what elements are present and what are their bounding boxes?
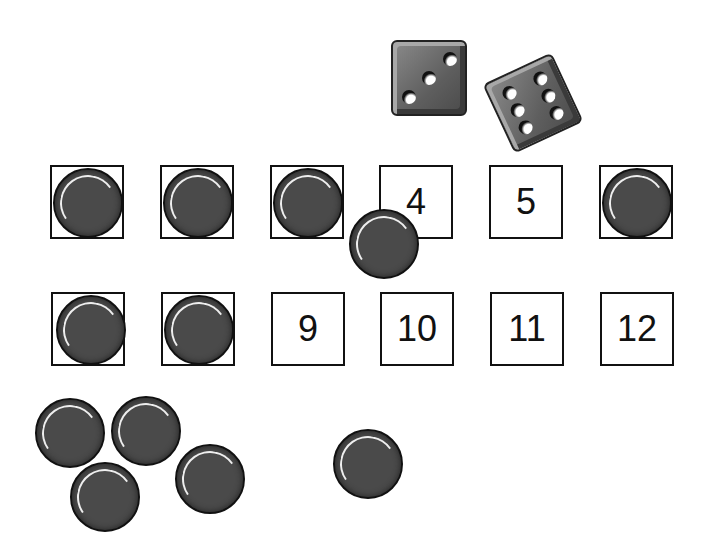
board-cell-3[interactable] [270,165,344,239]
pip-icon [508,101,527,120]
cell-number: 11 [508,308,545,350]
chip-covering[interactable] [273,168,343,238]
board-cell-12[interactable]: 12 [600,292,674,366]
chip-loose[interactable] [70,462,140,532]
chip-loose[interactable] [349,209,419,279]
chip-covering[interactable] [164,295,234,365]
die-six[interactable] [483,53,584,154]
chip-covering[interactable] [163,168,233,238]
board-cell-1[interactable] [50,165,124,239]
cell-number: 4 [406,181,426,223]
board-cell-6[interactable] [599,165,673,239]
pip-icon [443,52,457,66]
chip-loose[interactable] [111,396,181,466]
board-cell-11[interactable]: 11 [490,292,564,366]
chip-covering[interactable] [602,168,672,238]
cell-number: 9 [298,308,318,350]
cell-number: 12 [617,308,657,350]
chip-loose[interactable] [175,444,245,514]
board-cell-5[interactable]: 5 [489,165,563,239]
board-cell-10[interactable]: 10 [380,292,454,366]
board-cell-9[interactable]: 9 [271,292,345,366]
chip-loose[interactable] [35,398,105,468]
pip-icon [531,69,550,88]
cell-number: 10 [397,308,437,350]
die-three[interactable] [391,40,467,116]
pip-icon [547,104,566,123]
board-cell-2[interactable] [160,165,234,239]
chip-loose[interactable] [333,429,403,499]
pip-icon [500,84,519,103]
board-cell-8[interactable] [161,292,235,366]
chip-covering[interactable] [53,168,123,238]
board-cell-7[interactable] [51,292,125,366]
pip-icon [402,90,416,104]
pip-icon [516,118,535,137]
chip-covering[interactable] [56,295,126,365]
pip-icon [422,71,436,85]
cell-number: 5 [516,181,536,223]
pip-icon [539,87,558,106]
